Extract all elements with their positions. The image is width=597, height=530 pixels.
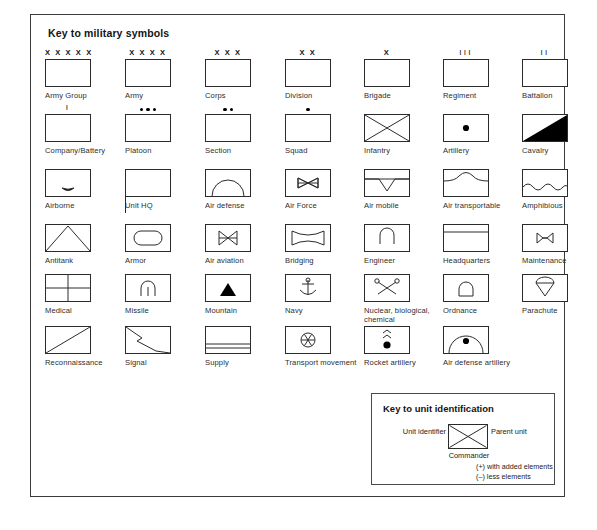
infantry-cross-icon bbox=[449, 425, 487, 448]
symbol-graphic: ICompany/Battery bbox=[45, 114, 91, 142]
symbol-label: Nuclear, biological, chemical bbox=[364, 306, 442, 325]
symbol-graphic: X XDivision bbox=[285, 59, 331, 87]
unit-frame bbox=[205, 114, 251, 142]
unit-frame bbox=[205, 59, 251, 87]
symbol-graphic: XBrigade bbox=[364, 59, 410, 87]
symbol-cell-nuclear-biological-chemical: Nuclear, biological, chemical bbox=[364, 274, 444, 302]
symbol-graphic: IIIRegiment bbox=[443, 59, 489, 87]
unit-identifier-label: Unit identifier bbox=[400, 427, 446, 436]
unit-frame bbox=[205, 326, 251, 354]
unit-frame bbox=[443, 169, 489, 197]
symbol-label: Army bbox=[125, 91, 203, 100]
symbol-graphic: Air defense artillery bbox=[443, 326, 489, 354]
unit-frame bbox=[364, 59, 410, 87]
unit-frame bbox=[443, 59, 489, 87]
unit-frame bbox=[522, 274, 568, 302]
unit-frame bbox=[285, 274, 331, 302]
symbol-graphic: Air Force bbox=[285, 169, 331, 197]
unit-frame bbox=[522, 169, 568, 197]
symbol-graphic: X X X XArmy bbox=[125, 59, 171, 87]
symbol-label: Reconnaissance bbox=[45, 358, 123, 367]
symbol-graphic: Antitank bbox=[45, 224, 91, 252]
symbol-graphic: Signal bbox=[125, 326, 171, 354]
symbol-label: Brigade bbox=[364, 91, 442, 100]
symbol-label: Air Force bbox=[285, 201, 363, 210]
symbol-label: Antitank bbox=[45, 256, 123, 265]
unit-frame bbox=[522, 114, 568, 142]
symbol-cell-bridging: Bridging bbox=[285, 224, 365, 252]
unit-frame bbox=[125, 114, 171, 142]
symbol-cell-air-defense-artillery: Air defense artillery bbox=[443, 326, 523, 354]
symbol-cell-platoon: Platoon bbox=[125, 114, 205, 142]
unit-identification-key: Key to unit identification Unit identifi… bbox=[371, 393, 555, 485]
symbol-graphic: Rocket artillery bbox=[364, 326, 410, 354]
symbol-cell-ordnance: Ordnance bbox=[443, 274, 523, 302]
symbol-cell-mountain: Mountain bbox=[205, 274, 285, 302]
symbol-cell-rocket-artillery: Rocket artillery bbox=[364, 326, 444, 354]
unit-frame bbox=[285, 114, 331, 142]
symbol-label: Infantry bbox=[364, 146, 442, 155]
symbol-label: Air aviation bbox=[205, 256, 283, 265]
unit-frame bbox=[45, 274, 91, 302]
unit-frame bbox=[285, 59, 331, 87]
unit-frame bbox=[364, 224, 410, 252]
symbol-cell-air-force: Air Force bbox=[285, 169, 365, 197]
symbol-graphic: Engineer bbox=[364, 224, 410, 252]
echelon-dots bbox=[125, 105, 171, 114]
symbol-cell-army-group: X X X X XArmy Group bbox=[45, 59, 125, 87]
symbol-cell-maintenance: Maintenance bbox=[522, 224, 597, 252]
symbol-graphic: X X XCorps bbox=[205, 59, 251, 87]
symbol-graphic: Transport movement bbox=[285, 326, 331, 354]
symbol-graphic: Armor bbox=[125, 224, 171, 252]
unit-frame bbox=[364, 274, 410, 302]
symbol-graphic: Infantry bbox=[364, 114, 410, 142]
symbol-graphic: Artillery bbox=[443, 114, 489, 142]
symbol-cell-army: X X X XArmy bbox=[125, 59, 205, 87]
symbol-graphic: Air transportable bbox=[443, 169, 489, 197]
symbol-label: Transport movement bbox=[285, 358, 363, 367]
parent-unit-label: Parent unit bbox=[491, 427, 541, 436]
symbol-label: Air defense artillery bbox=[443, 358, 521, 367]
symbol-label: Signal bbox=[125, 358, 203, 367]
symbol-label: Company/Battery bbox=[45, 146, 123, 155]
unit-frame bbox=[45, 114, 91, 142]
unit-frame bbox=[285, 224, 331, 252]
symbol-label: Air transportable bbox=[443, 201, 521, 210]
symbol-label: Air mobile bbox=[364, 201, 442, 210]
symbol-label: Division bbox=[285, 91, 363, 100]
symbol-cell-unit-hq: Unit HQ bbox=[125, 169, 205, 197]
symbol-label: Airborne bbox=[45, 201, 123, 210]
symbol-cell-transport-movement: Transport movement bbox=[285, 326, 365, 354]
symbol-cell-corps: X X XCorps bbox=[205, 59, 285, 87]
symbol-label: Air defense bbox=[205, 201, 283, 210]
symbol-cell-battalion: IIBattalion bbox=[522, 59, 597, 87]
symbol-graphic: IIBattalion bbox=[522, 59, 568, 87]
symbol-cell-company-battery: ICompany/Battery bbox=[45, 114, 125, 142]
symbol-label: Unit HQ bbox=[125, 201, 203, 210]
unit-frame bbox=[125, 326, 171, 354]
unit-symbol-box bbox=[448, 424, 488, 449]
symbol-cell-infantry: Infantry bbox=[364, 114, 444, 142]
echelon-marker: I bbox=[45, 103, 91, 114]
symbol-label: Supply bbox=[205, 358, 283, 367]
unit-frame bbox=[285, 169, 331, 197]
symbol-label: Medical bbox=[45, 306, 123, 315]
symbol-cell-regiment: IIIRegiment bbox=[443, 59, 523, 87]
symbol-cell-antitank: Antitank bbox=[45, 224, 125, 252]
unit-key-notes: (+) with added elements (–) less element… bbox=[476, 462, 553, 481]
symbol-label: Missile bbox=[125, 306, 203, 315]
symbol-label: Engineer bbox=[364, 256, 442, 265]
unit-frame bbox=[125, 274, 171, 302]
symbol-label: Rocket artillery bbox=[364, 358, 442, 367]
symbol-graphic: Amphibious bbox=[522, 169, 568, 197]
note-added-elements: (+) with added elements bbox=[476, 462, 553, 472]
unit-frame bbox=[364, 114, 410, 142]
symbol-label: Maintenance bbox=[522, 256, 597, 265]
symbol-cell-division: X XDivision bbox=[285, 59, 365, 87]
unit-frame bbox=[285, 326, 331, 354]
unit-frame bbox=[364, 169, 410, 197]
symbol-label: Regiment bbox=[443, 91, 521, 100]
echelon-marker: X X X bbox=[205, 48, 251, 59]
symbol-cell-air-aviation: Air aviation bbox=[205, 224, 285, 252]
note-less-elements: (–) less elements bbox=[476, 472, 553, 482]
